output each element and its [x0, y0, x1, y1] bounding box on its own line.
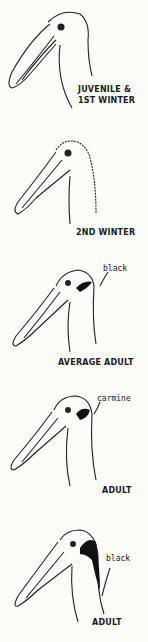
- panel-adult-carmine: carmine ADULT: [0, 370, 148, 500]
- label-adult-1: ADULT: [102, 486, 132, 495]
- average-adult-head-drawing: [0, 240, 148, 370]
- eye-icon: [65, 407, 71, 413]
- black-patch: [76, 282, 92, 292]
- adult-carmine-head-drawing: [0, 370, 148, 500]
- 2nd-winter-head-drawing: [0, 110, 148, 240]
- eye-icon: [65, 150, 72, 157]
- label-juvenile-line2: 1ST WINTER: [78, 96, 135, 105]
- label-adult-2: ADULT: [92, 618, 122, 627]
- adult-black-head-drawing: [0, 500, 148, 642]
- annotation-black-2: black: [106, 554, 130, 563]
- panel-adult-black: black ADULT: [0, 500, 148, 642]
- annotation-black: black: [103, 264, 127, 273]
- label-juvenile-line1: JUVENILE &: [78, 85, 131, 94]
- eye-icon: [70, 541, 76, 547]
- panel-2nd-winter: 2ND WINTER: [0, 110, 148, 240]
- label-average-adult: AVERAGE ADULT: [58, 358, 134, 367]
- annotation-carmine: carmine: [97, 394, 131, 403]
- label-2nd-winter: 2ND WINTER: [76, 228, 135, 237]
- panel-juvenile: JUVENILE & 1ST WINTER: [0, 0, 148, 115]
- carmine-patch: [76, 409, 90, 420]
- panel-average-adult: black AVERAGE ADULT: [0, 240, 148, 370]
- eye-icon: [58, 24, 65, 31]
- eye-icon: [65, 280, 71, 286]
